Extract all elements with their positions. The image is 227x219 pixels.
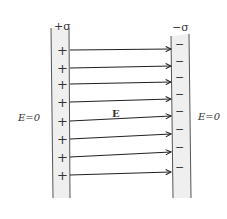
plus-sign: + <box>57 77 68 92</box>
field-arrow <box>70 66 171 68</box>
minus-sign: − <box>175 105 184 118</box>
plus-sign: + <box>57 61 68 76</box>
plus-sign: + <box>57 43 68 58</box>
minus-sign: − <box>175 71 184 84</box>
right-charge-label: −σ <box>172 21 189 34</box>
field-arrow <box>70 134 171 139</box>
field-arrow <box>70 82 171 84</box>
minus-sign: − <box>175 38 184 51</box>
minus-sign: − <box>175 141 184 154</box>
minus-sign: − <box>175 88 184 101</box>
left-charge-label: +σ <box>54 20 71 33</box>
capacitor-diagram: +σ −σ ++++++++ −−−−−−−− E E=0 E=0 <box>0 0 227 219</box>
field-lines <box>70 49 171 175</box>
field-arrow <box>70 99 171 102</box>
field-arrow <box>70 49 171 50</box>
plus-sign: + <box>57 168 68 183</box>
negative-charges: −−−−−−−− <box>175 38 184 174</box>
field-arrow <box>70 116 171 121</box>
minus-sign: − <box>175 55 184 68</box>
field-label: E <box>112 108 120 119</box>
outside-right-label: E=0 <box>197 111 221 122</box>
plus-sign: + <box>57 150 68 165</box>
field-arrow <box>70 152 171 157</box>
outside-left-label: E=0 <box>17 112 41 123</box>
plus-sign: + <box>57 132 68 147</box>
plus-sign: + <box>57 95 68 110</box>
minus-sign: − <box>175 123 184 136</box>
minus-sign: − <box>175 161 184 174</box>
plus-sign: + <box>57 114 68 129</box>
field-arrow <box>70 172 171 175</box>
